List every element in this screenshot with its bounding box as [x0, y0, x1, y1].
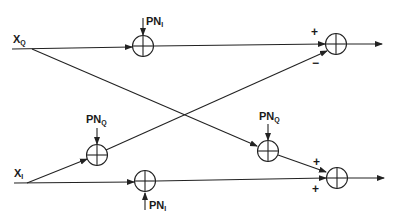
block-diagram [0, 0, 398, 222]
xi-line [14, 182, 134, 183]
noise-label-pn-q-right: PNQ [259, 111, 280, 123]
input-label-xi: XI [14, 168, 23, 180]
xi-branch-line [27, 159, 87, 183]
sign-bottom-plus-upper: + [313, 156, 320, 168]
noise-label-pn-i-top: PNI [146, 16, 163, 28]
xq-line [12, 47, 132, 49]
sign-bottom-plus-lower: + [312, 183, 319, 195]
top-mult-to-sum-line [154, 44, 325, 46]
sign-top-plus: + [311, 26, 318, 38]
left-q-cross-line [106, 51, 327, 150]
summer-top [326, 34, 347, 55]
input-label-xq: XQ [13, 34, 26, 46]
noise-label-pn-i-bottom: PNI [149, 200, 166, 212]
noise-label-pn-q-left: PNQ [86, 114, 107, 126]
multiplier-top [133, 36, 154, 57]
multiplier-right-q [258, 141, 279, 162]
bottom-mult-to-sum-line [156, 178, 326, 181]
multiplier-left-q [87, 145, 108, 166]
sign-top-minus: − [312, 57, 319, 69]
summer-bottom [327, 168, 348, 189]
multiplier-bottom [135, 171, 156, 192]
